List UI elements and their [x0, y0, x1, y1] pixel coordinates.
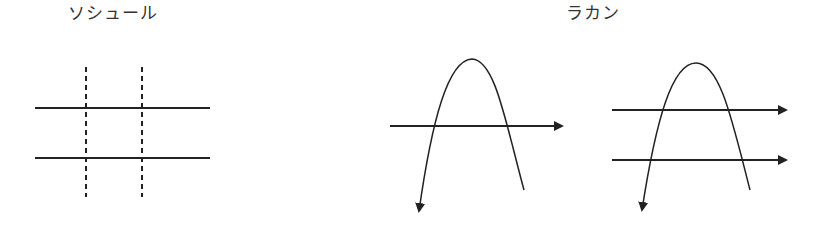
quilting-curve: [642, 63, 750, 210]
quilting-curve: [419, 59, 524, 211]
saussure-diagram: [35, 67, 210, 197]
lacan-diagram-single: [390, 59, 562, 211]
lacan-diagram-double: [612, 63, 786, 210]
diagram-canvas: [0, 0, 813, 227]
